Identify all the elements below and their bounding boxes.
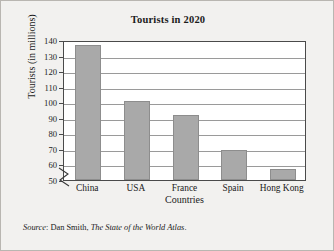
chart-title: Tourists in 2020 — [1, 14, 334, 25]
x-axis-title: Countries — [63, 194, 306, 205]
source-work: The State of the World Atlas — [91, 223, 185, 232]
source-note: Source: Dan Smith, The State of the Worl… — [23, 223, 186, 232]
y-axis-tick-label: 110 — [21, 83, 57, 93]
x-axis-tick-label: USA — [127, 183, 146, 193]
axis-break-icon — [56, 167, 72, 187]
y-axis-tick-label: 90 — [21, 114, 57, 124]
y-axis-tick-label: 60 — [21, 160, 57, 170]
bar — [124, 101, 150, 180]
bar — [270, 169, 296, 180]
chart-figure: Tourists in 2020 Tourists (in millions) … — [0, 0, 334, 251]
bar — [75, 45, 101, 180]
source-terminator: . — [184, 223, 186, 232]
bar — [173, 115, 199, 180]
y-axis-tick-label: 70 — [21, 145, 57, 155]
x-axis-tick-label: Hong Kong — [260, 183, 304, 193]
source-author: Dan Smith, — [50, 223, 90, 232]
bar — [221, 150, 247, 180]
y-axis-tick-label: 120 — [21, 67, 57, 77]
y-axis-tick-label: 140 — [21, 36, 57, 46]
plot-area — [63, 41, 306, 181]
x-axis-tick-label: China — [76, 183, 98, 193]
y-axis-tick-label: 100 — [21, 98, 57, 108]
x-axis-tick-label: France — [172, 183, 198, 193]
y-axis-tick-label: 50 — [21, 176, 57, 186]
source-label: Source — [23, 223, 46, 232]
y-axis-tick-label: 130 — [21, 52, 57, 62]
x-axis-tick-label: Spain — [222, 183, 243, 193]
y-axis-tick-label: 80 — [21, 129, 57, 139]
